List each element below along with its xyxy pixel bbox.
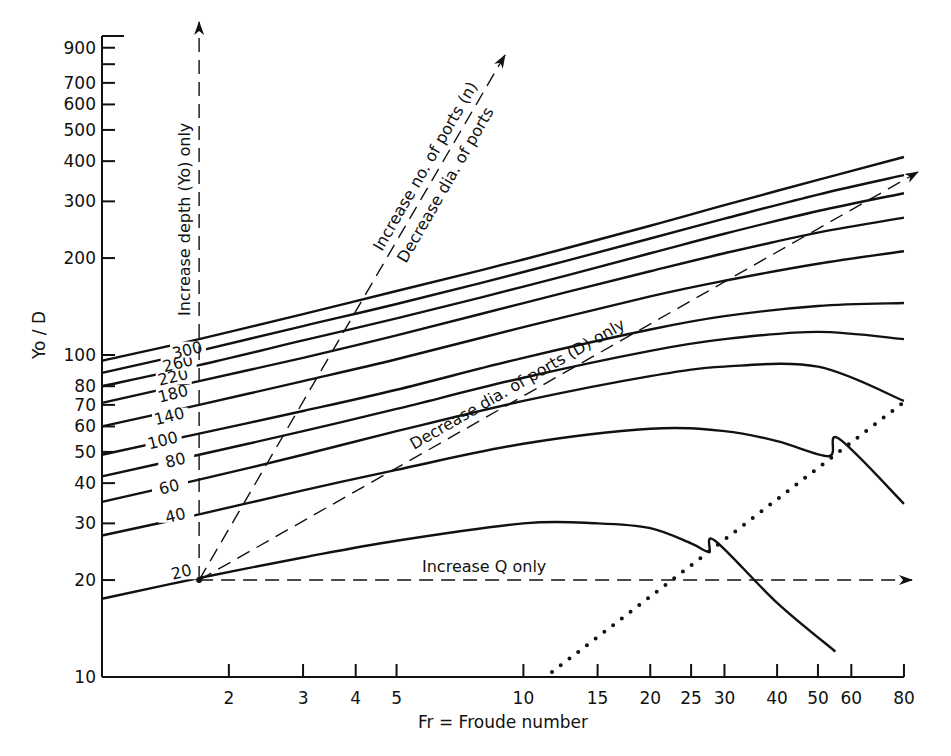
curve-300	[102, 157, 904, 361]
curve-20	[102, 522, 835, 652]
dotted-limit-line	[552, 402, 904, 672]
label-increase-depth: Increase depth (Yo) only	[175, 123, 194, 316]
x-tick-label: 40	[766, 688, 788, 708]
curve-220	[102, 193, 904, 386]
y-tick-label: 20	[74, 570, 96, 590]
annotation-arrow	[199, 55, 505, 580]
curve-260	[102, 175, 904, 373]
y-tick-label: 300	[64, 191, 96, 211]
x-tick-label: 15	[587, 688, 609, 708]
y-axis-title: Yo / D	[29, 311, 49, 360]
y-tick-label: 900	[64, 38, 96, 58]
y-tick-label: 10	[74, 667, 96, 687]
y-tick-label: 100	[64, 345, 96, 365]
curve-100	[102, 303, 904, 455]
curve-label: 140	[152, 403, 186, 429]
y-tick-label: 60	[74, 416, 96, 436]
annotations	[196, 22, 918, 672]
x-tick-label: 4	[350, 688, 361, 708]
curves: 20406080100140180220260300	[102, 157, 904, 652]
label-increase-q: Increase Q only	[422, 557, 546, 576]
y-tick-label: 200	[64, 248, 96, 268]
curve-40	[102, 428, 904, 536]
y-tick-label: 50	[74, 442, 96, 462]
origin-point	[196, 577, 202, 583]
x-tick-label: 50	[807, 688, 829, 708]
y-tick-label: 80	[74, 376, 96, 396]
curve-180	[102, 218, 904, 403]
x-tick-label: 10	[513, 688, 535, 708]
curve-80	[102, 332, 904, 476]
x-tick-label: 2	[223, 688, 234, 708]
x-tick-label: 25	[680, 688, 702, 708]
y-tick-label: 30	[74, 513, 96, 533]
y-tick-label: 40	[74, 473, 96, 493]
curve-label: 100	[146, 427, 180, 453]
x-tick-label: 3	[298, 688, 309, 708]
x-tick-label: 5	[391, 688, 402, 708]
y-tick-label: 600	[64, 94, 96, 114]
froude-chart: 2345101520253040506080102030405060708010…	[0, 0, 951, 756]
y-tick-label: 70	[74, 395, 96, 415]
y-tick-label: 700	[64, 73, 96, 93]
y-tick-label: 500	[64, 120, 96, 140]
x-tick-label: 30	[714, 688, 736, 708]
x-tick-label: 60	[840, 688, 862, 708]
x-tick-label: 80	[893, 688, 915, 708]
x-axis-title: Fr = Froude number	[418, 712, 588, 732]
x-tick-label: 20	[639, 688, 661, 708]
y-tick-label: 400	[64, 151, 96, 171]
